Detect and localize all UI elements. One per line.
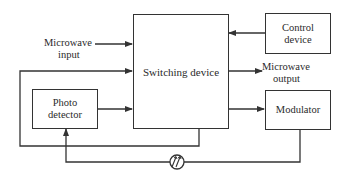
modulator-to-fiber-line — [184, 129, 300, 162]
modulator-box: Modulator — [265, 90, 331, 130]
fiber-coil-icon — [170, 155, 184, 169]
control-device-label-line2: device — [284, 34, 311, 46]
mw-output-line2: output — [262, 73, 310, 85]
photo-detector-label-line2: detector — [48, 109, 82, 121]
switching-device-box: Switching device — [133, 14, 229, 129]
photo-detector-box: Photo detector — [32, 89, 98, 129]
photo-detector-label-line1: Photo — [53, 97, 78, 109]
mw-input-line1: Microwave — [44, 37, 92, 49]
switching-device-label: Switching device — [143, 66, 219, 78]
modulator-label: Modulator — [276, 104, 320, 116]
mw-output-line1: Microwave — [262, 61, 310, 73]
mw-input-label: Microwave input — [44, 37, 92, 61]
control-device-label-line1: Control — [282, 22, 314, 34]
control-device-box: Control device — [265, 13, 331, 54]
mw-output-label: Microwave output — [262, 61, 310, 85]
mw-input-line2: input — [44, 49, 92, 61]
